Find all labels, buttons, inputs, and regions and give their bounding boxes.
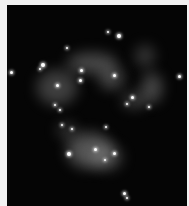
galaxy-image (7, 5, 187, 206)
star (107, 31, 109, 33)
nebula-glow (135, 45, 155, 67)
star (67, 152, 71, 156)
star (66, 47, 68, 49)
star (94, 148, 97, 151)
star (113, 74, 116, 77)
nebula-glow (92, 145, 122, 170)
star (105, 126, 107, 128)
star (123, 192, 126, 195)
star (148, 106, 150, 108)
star (80, 69, 83, 72)
star (61, 124, 63, 126)
star (113, 152, 116, 155)
star (126, 103, 128, 105)
star (71, 128, 73, 130)
star (10, 71, 13, 74)
nebula-glow (122, 93, 147, 108)
star (117, 34, 121, 38)
star (54, 104, 56, 106)
star (79, 79, 82, 82)
star (59, 109, 61, 111)
star (126, 197, 128, 199)
star (178, 75, 181, 78)
nebula-glow (57, 123, 77, 138)
star (41, 63, 45, 67)
star (56, 84, 59, 87)
nebula-glow (37, 70, 77, 105)
star (104, 159, 106, 161)
nebula-glow (99, 67, 124, 89)
star (39, 68, 41, 70)
star (131, 96, 134, 99)
